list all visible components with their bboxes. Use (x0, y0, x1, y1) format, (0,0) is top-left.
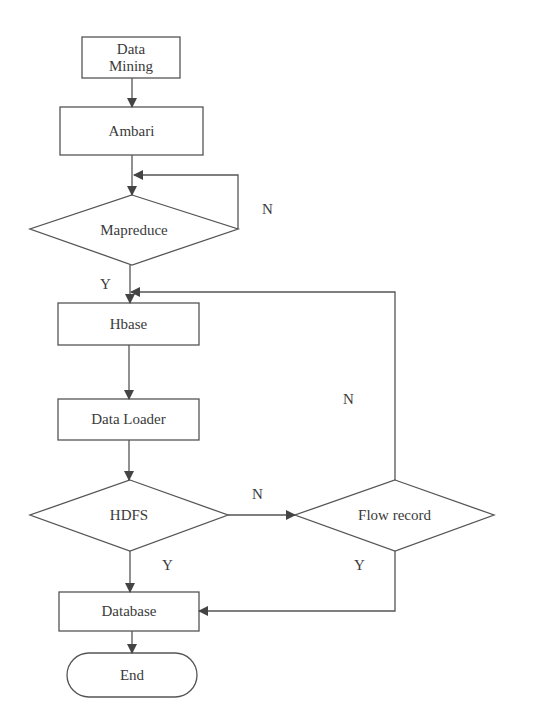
edge-label-flow-record-n: N (343, 391, 354, 408)
data-mining-line1: Data (117, 41, 145, 58)
node-label-ambari: Ambari (60, 107, 203, 155)
edge-label-flow-record-y: Y (354, 557, 365, 574)
node-label-database: Database (59, 592, 199, 631)
edge-label-mapreduce-n: N (262, 201, 273, 218)
node-label-flow-record: Flow record (295, 480, 494, 551)
edge-label-mapreduce-y: Y (100, 276, 111, 293)
node-label-end: End (67, 653, 197, 697)
edge-label-hdfs-y: Y (162, 557, 173, 574)
edge-label-hdfs-n: N (252, 486, 263, 503)
node-label-hbase: Hbase (58, 303, 199, 345)
node-label-data-loader: Data Loader (58, 399, 199, 440)
node-label-hdfs: HDFS (30, 480, 228, 551)
node-label-data-mining: Data Mining (82, 37, 180, 78)
edge-flowrecord-database-y (199, 551, 395, 611)
data-mining-line2: Mining (109, 58, 153, 75)
node-label-mapreduce: Mapreduce (30, 195, 238, 265)
